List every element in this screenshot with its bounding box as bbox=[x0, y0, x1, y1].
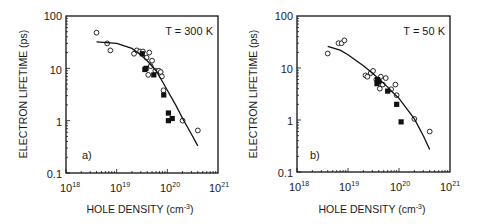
panel-label: b) bbox=[310, 149, 320, 161]
y-tick-0.1: 0.1 bbox=[47, 168, 62, 180]
filled-square-point bbox=[161, 92, 166, 97]
panel-b: 100 10 1 0.1 1018 1019 1020 1021 HOLE DE… bbox=[247, 10, 460, 215]
data-series bbox=[325, 38, 432, 150]
x-tick-labels: 1018 1019 1020 1021 bbox=[289, 180, 460, 193]
open-circle-point bbox=[427, 129, 432, 134]
x-tick-1e19: 1019 bbox=[110, 181, 130, 194]
x-tick-1e18: 1018 bbox=[289, 180, 309, 193]
fit-curve bbox=[328, 46, 430, 149]
x-tick-1e19: 1019 bbox=[339, 180, 359, 193]
y-tick-100: 100 bbox=[275, 10, 293, 22]
x-tick-labels: 1018 1019 1020 1021 bbox=[60, 181, 229, 194]
x-axis-label: HOLE DENSITY (cm-3) bbox=[87, 203, 194, 215]
filled-square-point bbox=[166, 110, 171, 115]
x-tick-1e21: 1021 bbox=[209, 181, 229, 194]
open-circle-point bbox=[393, 82, 398, 87]
y-axis-label: ELECTRON LIFETIME (ps) bbox=[17, 30, 29, 158]
x-tick-1e21: 1021 bbox=[440, 180, 460, 193]
panel-label: a) bbox=[82, 149, 92, 161]
y-tick-labels: 100 10 1 0.1 bbox=[44, 10, 62, 180]
open-circle-point bbox=[383, 76, 388, 81]
open-circle-point bbox=[195, 128, 200, 133]
open-circle-point bbox=[150, 58, 155, 63]
filled-square-point bbox=[399, 119, 404, 124]
two-panel-lifetime-plot: 100 10 1 0.1 1018 1019 1020 1021 HOLE DE… bbox=[0, 0, 479, 224]
open-circle-point bbox=[161, 88, 166, 93]
filled-square-point bbox=[394, 102, 399, 107]
x-tick-1e18: 1018 bbox=[60, 181, 80, 194]
temperature-annotation: T = 300 K bbox=[165, 25, 213, 37]
data-series bbox=[94, 30, 200, 146]
y-tick-10: 10 bbox=[281, 63, 293, 75]
y-tick-10: 10 bbox=[50, 64, 62, 76]
open-circle-point bbox=[342, 38, 347, 43]
y-axis-label: ELECTRON LIFETIME (ps) bbox=[247, 30, 259, 158]
x-axis-label: HOLE DENSITY (cm-3) bbox=[319, 203, 426, 215]
filled-square-point bbox=[170, 116, 175, 121]
y-tick-labels: 100 10 1 0.1 bbox=[275, 10, 293, 179]
y-tick-100: 100 bbox=[44, 10, 62, 22]
filled-square-point bbox=[151, 72, 156, 77]
open-circle-point bbox=[325, 51, 330, 56]
open-circle-point bbox=[108, 48, 113, 53]
panel-a: 100 10 1 0.1 1018 1019 1020 1021 HOLE DE… bbox=[17, 10, 229, 215]
figure: 100 10 1 0.1 1018 1019 1020 1021 HOLE DE… bbox=[0, 0, 479, 224]
open-circle-point bbox=[147, 50, 152, 55]
x-tick-1e20: 1020 bbox=[390, 180, 410, 193]
y-tick-1: 1 bbox=[287, 115, 293, 127]
open-circle-point bbox=[94, 30, 99, 35]
plot-frame bbox=[297, 16, 450, 172]
filled-square-point bbox=[142, 67, 147, 72]
y-tick-1: 1 bbox=[56, 116, 62, 128]
y-tick-0.1: 0.1 bbox=[278, 167, 293, 179]
open-circle-point bbox=[146, 72, 151, 77]
x-tick-1e20: 1020 bbox=[160, 181, 180, 194]
temperature-annotation: T = 50 K bbox=[403, 25, 445, 37]
